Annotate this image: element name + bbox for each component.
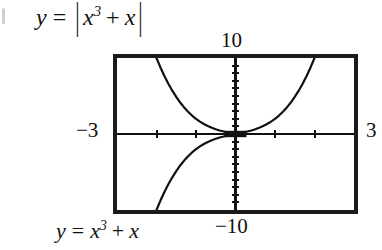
window-ymax-label: 10 bbox=[221, 30, 242, 51]
abs-bar-close-icon: | bbox=[139, 0, 143, 36]
bottom-caption-term: x bbox=[129, 218, 139, 243]
curve-series-1 bbox=[157, 134, 236, 210]
origin-marker bbox=[225, 131, 247, 137]
top-expression-term: x bbox=[125, 4, 136, 30]
bottom-caption-lhs: y bbox=[56, 218, 66, 243]
top-expression-base: x bbox=[83, 4, 94, 30]
figure-root: y=|x3+x| 10 −10 −3 3 y=x3+x bbox=[0, 0, 382, 250]
top-expression-exponent: 3 bbox=[94, 3, 101, 19]
top-expression-equals: = bbox=[53, 4, 67, 30]
bottom-caption-base: x bbox=[90, 218, 100, 243]
bottom-caption-equals: = bbox=[72, 218, 84, 243]
window-xmin-label: −3 bbox=[76, 120, 98, 141]
abs-bar-open-icon: | bbox=[75, 0, 79, 36]
plot-frame bbox=[113, 54, 358, 214]
top-expression-plus: + bbox=[106, 4, 120, 30]
bottom-caption: y=x3+x bbox=[56, 219, 139, 242]
bullet-mark-icon bbox=[2, 8, 5, 24]
top-expression-lhs: y bbox=[36, 4, 47, 30]
origin-marker bbox=[225, 131, 247, 137]
bottom-caption-exponent: 3 bbox=[100, 218, 107, 233]
top-expression: y=|x3+x| bbox=[36, 4, 146, 29]
window-ymin-label: −10 bbox=[215, 216, 248, 237]
bottom-caption-plus: + bbox=[112, 218, 124, 243]
plot-canvas bbox=[117, 58, 354, 210]
window-xmax-label: 3 bbox=[366, 120, 377, 141]
